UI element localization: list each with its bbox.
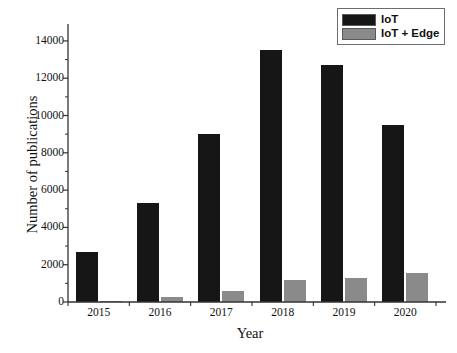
x-tick-2018: 2018: [256, 306, 310, 318]
bar-2019-iot: [321, 65, 343, 302]
x-tick-2020: 2020: [378, 306, 432, 318]
plot-area: [68, 26, 436, 302]
x-tick-2016: 2016: [133, 306, 187, 318]
bar-2016-iot-edge: [161, 297, 183, 302]
bar-2017-iot-edge: [222, 291, 244, 302]
y-axis-tick-labels: 02000400060008000100001200014000: [16, 0, 64, 353]
y-tick-10000: 10000: [20, 110, 64, 122]
x-tick-2019: 2019: [317, 306, 371, 318]
legend-entry-iot: IoT: [342, 13, 439, 26]
bar-2020-iot-edge: [406, 273, 428, 302]
bar-2015-iot-edge: [100, 301, 122, 302]
chart-legend: IoTIoT + Edge: [337, 8, 445, 45]
x-tick-2017: 2017: [194, 306, 248, 318]
y-tick-8000: 8000: [20, 147, 64, 159]
y-tick-2000: 2000: [20, 259, 64, 271]
bar-2016-iot: [137, 203, 159, 302]
legend-label-iot-edge: IoT + Edge: [381, 28, 439, 40]
y-tick-12000: 12000: [20, 72, 64, 84]
bar-2018-iot: [260, 50, 282, 302]
bar-2017-iot: [198, 134, 220, 302]
legend-swatch-iot: [342, 14, 376, 26]
x-axis-title: Year: [70, 325, 430, 342]
x-axis-tick-labels: 201520162017201820192020: [0, 306, 457, 326]
legend-swatch-iot-edge: [342, 28, 376, 40]
bar-2019-iot-edge: [345, 278, 367, 302]
y-tick-6000: 6000: [20, 184, 64, 196]
x-tick-2015: 2015: [72, 306, 126, 318]
bar-2015-iot: [76, 252, 98, 302]
bar-chart: Number of publications 02000400060008000…: [0, 0, 457, 353]
y-tick-14000: 14000: [20, 35, 64, 47]
y-tick-4000: 4000: [20, 221, 64, 233]
legend-label-iot: IoT: [381, 14, 398, 26]
bar-2020-iot: [382, 125, 404, 302]
legend-entry-iot-edge: IoT + Edge: [342, 27, 439, 40]
bar-2018-iot-edge: [284, 280, 306, 302]
